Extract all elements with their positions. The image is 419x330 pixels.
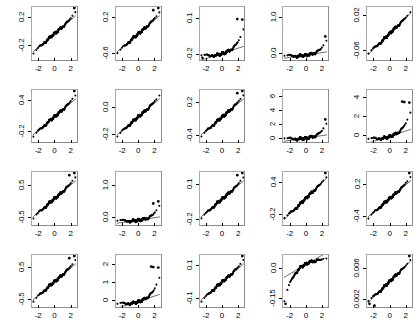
x-tick-mark xyxy=(222,58,223,61)
qq-panel-r4c5[interactable]: 0.0020.006-202 xyxy=(335,248,419,330)
x-tick-mark xyxy=(238,140,239,143)
x-tick-label: -2 xyxy=(202,146,209,155)
plot-area[interactable] xyxy=(199,6,246,61)
x-tick-mark xyxy=(322,140,323,143)
x-axis: -202 xyxy=(366,308,413,330)
qq-panel-r4c1[interactable]: -0.50.5-202 xyxy=(0,248,84,330)
qq-panel-r2c4[interactable]: 0246-202 xyxy=(251,83,335,166)
qq-scatter xyxy=(200,90,245,143)
outlier-point xyxy=(408,172,411,175)
x-tick-mark xyxy=(154,305,155,308)
qq-panel-r4c4[interactable]: -0.150.0-202 xyxy=(251,248,335,330)
y-tick-label: 0.02 xyxy=(357,15,365,30)
outlier-point xyxy=(152,9,155,12)
x-tick-label: 0 xyxy=(136,146,140,155)
qq-scatter xyxy=(283,90,328,143)
x-tick-label: -2 xyxy=(35,146,42,155)
x-tick-label: 2 xyxy=(320,64,324,73)
x-tick-label: 2 xyxy=(320,311,324,320)
data-points xyxy=(284,257,328,305)
outlier-point xyxy=(157,7,160,10)
qq-panel-r3c3[interactable]: -0.20.1-202 xyxy=(168,165,252,248)
x-tick-label: 2 xyxy=(236,64,240,73)
x-tick-label: 2 xyxy=(236,146,240,155)
plot-area[interactable] xyxy=(282,6,329,61)
x-tick-label: -2 xyxy=(370,229,377,238)
qq-scatter xyxy=(116,255,161,308)
qq-panel-r1c2[interactable]: -0.60.2-202 xyxy=(84,0,168,83)
qq-panel-r2c2[interactable]: -0.20.0-202 xyxy=(84,83,168,166)
y-tick-label: 0.4 xyxy=(273,182,281,193)
x-tick-mark xyxy=(373,305,374,308)
x-tick-label: 2 xyxy=(152,146,156,155)
qq-scatter xyxy=(116,172,161,225)
qq-panel-r4c2[interactable]: 012-202 xyxy=(84,248,168,330)
plot-area[interactable] xyxy=(282,89,329,144)
plot-area[interactable] xyxy=(366,254,413,309)
plot-area[interactable] xyxy=(282,254,329,309)
plot-area[interactable] xyxy=(115,89,162,144)
x-tick-mark xyxy=(206,58,207,61)
qq-scatter xyxy=(367,172,412,225)
y-axis: 0246 xyxy=(251,89,282,144)
outlier-point xyxy=(73,255,76,258)
x-tick-label: 0 xyxy=(220,311,224,320)
y-axis: 024 xyxy=(335,89,366,144)
qq-panel-r2c1[interactable]: -0.20.4-202 xyxy=(0,83,84,166)
qq-panel-r2c5[interactable]: 024-202 xyxy=(335,83,419,166)
x-tick-mark xyxy=(54,223,55,226)
x-tick-label: 2 xyxy=(152,311,156,320)
plot-area[interactable] xyxy=(199,254,246,309)
plot-area[interactable] xyxy=(366,6,413,61)
x-tick-mark xyxy=(122,223,123,226)
plot-area[interactable] xyxy=(282,171,329,226)
qq-panel-r3c4[interactable]: -0.20.4-202 xyxy=(251,165,335,248)
x-tick-label: 2 xyxy=(68,64,72,73)
x-tick-label: 2 xyxy=(404,311,408,320)
qq-panel-r1c4[interactable]: 0.01.0-202 xyxy=(251,0,335,83)
x-axis: -202 xyxy=(199,226,246,248)
x-axis: -202 xyxy=(282,61,329,83)
x-tick-label: 0 xyxy=(52,311,56,320)
qq-panel-r4c3[interactable]: -0.10.1-202 xyxy=(168,248,252,330)
qq-panel-r1c5[interactable]: -0.060.02-202 xyxy=(335,0,419,83)
x-tick-mark xyxy=(138,140,139,143)
qq-panel-r2c3[interactable]: -0.40.2-202 xyxy=(168,83,252,166)
plot-area[interactable] xyxy=(115,254,162,309)
qq-scatter xyxy=(32,7,77,60)
y-tick-label: 0.0 xyxy=(273,53,281,64)
outlier-point xyxy=(241,90,244,93)
plot-area[interactable] xyxy=(31,6,78,61)
x-axis: -202 xyxy=(282,226,329,248)
plot-area[interactable] xyxy=(115,171,162,226)
x-axis: -202 xyxy=(366,226,413,248)
qq-scatter xyxy=(32,255,77,308)
plot-area[interactable] xyxy=(31,171,78,226)
y-tick-label: 2 xyxy=(273,124,281,128)
qq-panel-r1c3[interactable]: -0.20.1-202 xyxy=(168,0,252,83)
qq-panel-r3c5[interactable]: -0.40.2-202 xyxy=(335,165,419,248)
qq-scatter xyxy=(367,7,412,60)
data-points xyxy=(32,255,76,303)
plot-area[interactable] xyxy=(199,89,246,144)
x-tick-mark xyxy=(290,58,291,61)
y-axis: -0.20.0 xyxy=(84,89,115,144)
plot-area[interactable] xyxy=(366,89,413,144)
plot-area[interactable] xyxy=(199,171,246,226)
qq-scatter xyxy=(283,7,328,60)
plot-area[interactable] xyxy=(115,6,162,61)
qq-scatter xyxy=(116,90,161,143)
qq-panel-r1c1[interactable]: -0.20.2-202 xyxy=(0,0,84,83)
qq-panel-r3c2[interactable]: 0.01.0-202 xyxy=(84,165,168,248)
x-tick-label: 0 xyxy=(304,64,308,73)
qq-scatter xyxy=(283,255,328,308)
data-points xyxy=(368,172,412,220)
plot-area[interactable] xyxy=(31,89,78,144)
plot-area[interactable] xyxy=(366,171,413,226)
x-tick-mark xyxy=(373,140,374,143)
plot-area[interactable] xyxy=(31,254,78,309)
x-tick-label: -2 xyxy=(286,229,293,238)
qq-panel-r3c1[interactable]: -0.50.5-202 xyxy=(0,165,84,248)
x-tick-label: 2 xyxy=(236,229,240,238)
x-tick-mark xyxy=(238,58,239,61)
